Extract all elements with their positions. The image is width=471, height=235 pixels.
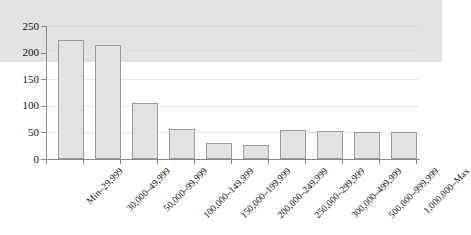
x-tick-0 [46,160,47,164]
x-tick-10 [416,160,417,164]
bar-0 [58,40,84,159]
x-tick-7 [305,160,306,164]
bar-3 [169,129,195,159]
y-tick-label-200: 200 [1,47,39,58]
bar-5 [243,145,269,159]
bar-6 [280,130,306,159]
y-tick-50 [41,132,46,133]
x-tick-3 [157,160,158,164]
bar-1 [95,45,121,159]
bar-2 [132,103,158,159]
bar-9 [391,132,417,159]
x-tick-5 [231,160,232,164]
x-axis-line [46,159,420,160]
y-tick-label-250: 250 [1,21,39,32]
x-tick-4 [194,160,195,164]
y-tick-label-150: 150 [1,74,39,85]
x-tick-1 [83,160,84,164]
x-axis-label-0: Min–29,999 [85,166,125,206]
y-tick-label-100: 100 [1,100,39,111]
bar-4 [206,143,232,159]
y-tick-label-50: 50 [1,127,39,138]
bar-chart: 250 200 150 100 50 0 Min–29,999 30,000–4… [0,0,442,62]
x-tick-6 [268,160,269,164]
bars-layer [46,26,420,159]
x-tick-2 [120,160,121,164]
x-tick-9 [379,160,380,164]
bar-8 [354,132,380,159]
x-tick-8 [342,160,343,164]
y-axis-line [46,26,47,160]
y-tick-150 [41,79,46,80]
y-tick-label-0: 0 [1,154,39,165]
x-axis-label-text-0: Min–29,999 [85,166,125,206]
y-tick-100 [41,106,46,107]
bar-7 [317,131,343,159]
y-tick-200 [41,53,46,54]
y-tick-250 [41,26,46,27]
